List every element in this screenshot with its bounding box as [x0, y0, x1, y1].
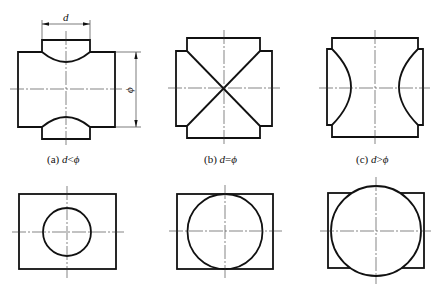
figure-c-bottom [320, 177, 431, 284]
figure-a-top: d ϕ [10, 11, 141, 146]
caption-a: (a) d<ϕ [47, 153, 80, 166]
caption-c: (c) d>ϕ [356, 153, 389, 166]
figure-b-top [168, 30, 280, 146]
figure-a-bottom-rect [19, 194, 116, 269]
arrow-right-icon [83, 22, 90, 25]
intersection-diagram: d ϕ (a) d<ϕ (b) d=ϕ (c) d>ϕ [0, 0, 438, 296]
figure-c-right-curve [399, 49, 418, 125]
d-label: d [63, 11, 69, 23]
figure-c-top [319, 30, 430, 146]
caption-b: (b) d=ϕ [204, 153, 237, 166]
arrow-up-icon [134, 52, 137, 59]
phi-label: ϕ [123, 87, 135, 93]
arrow-left-icon [42, 22, 49, 25]
arrow-down-icon [134, 120, 137, 127]
figure-a-outline [18, 40, 115, 139]
figure-c-left-curve [332, 49, 351, 125]
figure-a-bottom [12, 186, 124, 278]
figure-b-bottom [169, 185, 282, 278]
